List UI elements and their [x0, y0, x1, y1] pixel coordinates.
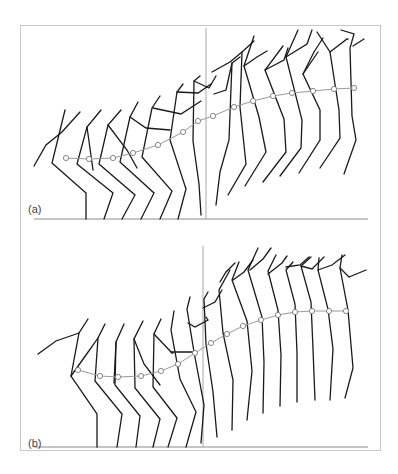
trajectory-marker [110, 155, 115, 160]
leg-segment [170, 84, 186, 219]
trajectory-marker [231, 104, 236, 109]
arm-segment [303, 38, 323, 74]
trajectory-marker [292, 309, 297, 314]
trajectory-marker [270, 93, 275, 98]
trajectory-marker [309, 308, 314, 313]
trajectory-marker [180, 129, 185, 134]
trajectory-marker [240, 323, 245, 328]
leg-segment [263, 46, 286, 182]
stick-figure [244, 36, 267, 186]
leg-segment [71, 319, 97, 447]
leg-segment [204, 292, 217, 437]
stick-figure [340, 255, 366, 398]
arm-segment [38, 333, 79, 354]
leg-segment [99, 110, 135, 219]
leg-segment [142, 96, 172, 219]
trajectory-marker [97, 373, 102, 378]
trajectory-marker [250, 98, 255, 103]
trajectory-marker [175, 361, 180, 366]
trajectory-marker [158, 368, 163, 373]
arm-segment [214, 63, 232, 94]
arm-segment [340, 268, 366, 277]
leg-segment [232, 262, 252, 420]
trajectory-marker [115, 374, 120, 379]
trajectory-marker [130, 150, 135, 155]
arm-segment [87, 127, 93, 170]
trajectory-marker [86, 156, 91, 161]
leg-segment [187, 297, 204, 443]
leg-segment [219, 270, 233, 430]
trajectory-marker [258, 317, 263, 322]
leg-segment [280, 30, 302, 176]
stick-figure [318, 255, 345, 400]
panel-label-a: (a) [28, 203, 41, 215]
trajectory-marker [326, 308, 331, 313]
stick-figure-plot [0, 0, 398, 474]
trajectory-marker [75, 367, 80, 372]
trajectory-marker [351, 85, 356, 90]
leg-segment [120, 102, 154, 219]
leg-segment [286, 262, 297, 402]
stick-figure [219, 263, 235, 430]
stick-figure [114, 324, 140, 447]
stick-figure [286, 257, 309, 402]
trajectory-marker [331, 86, 336, 91]
stick-figure [268, 255, 287, 406]
panel-b [34, 246, 368, 447]
trajectory-marker [63, 155, 68, 160]
trajectory-marker [155, 142, 160, 147]
arm-segment [244, 51, 267, 66]
stick-figure [341, 30, 364, 174]
stick-figure [248, 248, 271, 413]
stick-figure [38, 319, 97, 447]
trajectory-marker [289, 90, 294, 95]
stick-figure [203, 290, 222, 437]
stick-figure [299, 38, 323, 173]
trajectory-marker [224, 331, 229, 336]
stick-figure [214, 57, 240, 205]
trajectory-marker [310, 88, 315, 93]
arm-segment [286, 30, 312, 57]
trajectory-marker [195, 118, 200, 123]
leg-segment [299, 52, 320, 173]
leg-segment [95, 324, 122, 447]
stick-figure [263, 46, 288, 182]
leg-segment [115, 324, 140, 447]
stick-figure [193, 76, 216, 215]
leg-segment [268, 255, 281, 406]
arm-segment [353, 39, 364, 46]
stick-figure [232, 260, 253, 420]
leg-segment [153, 319, 177, 447]
leg-segment [52, 110, 86, 219]
leg-segment [301, 257, 315, 400]
trajectory-marker [210, 113, 215, 118]
arm-segment [134, 339, 160, 385]
stick-figure [170, 84, 211, 219]
trajectory-marker [208, 340, 213, 345]
arm-segment [212, 52, 242, 72]
leg-segment [341, 30, 356, 174]
trajectory-marker [275, 312, 280, 317]
leg-segment [317, 32, 340, 168]
gait-figure: (a) (b) [0, 0, 398, 474]
stick-figure [317, 32, 348, 168]
leg-segment [318, 258, 333, 400]
arm-segment [330, 39, 348, 52]
arm-segment [265, 48, 288, 70]
panel-label-b: (b) [28, 437, 41, 449]
trajectory-marker [192, 350, 197, 355]
trajectory-marker [343, 308, 348, 313]
stick-figure [99, 110, 137, 219]
arm-segment [154, 334, 173, 353]
leg-segment [193, 76, 201, 215]
trajectory-marker [138, 373, 143, 378]
stick-figure [153, 319, 177, 447]
panel-a [34, 28, 368, 219]
arm-segment [108, 125, 137, 168]
